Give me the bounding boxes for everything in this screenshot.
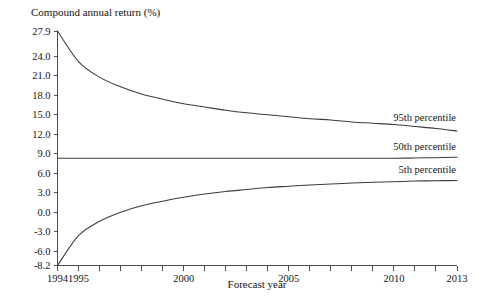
series-inline-labels: 95th percentile50th percentile5th percen… bbox=[393, 112, 456, 175]
series-curve bbox=[58, 157, 458, 158]
chart-page: Compound annual return (%) -8.2-6.0-3.00… bbox=[0, 0, 486, 307]
y-tick-label: -6.0 bbox=[34, 246, 51, 257]
y-axis: -8.2-6.0-3.00.03.06.09.012.015.018.021.0… bbox=[32, 26, 57, 272]
y-tick-label: 18.0 bbox=[32, 90, 50, 101]
y-axis-ticks bbox=[54, 31, 58, 266]
y-tick-label: 21.0 bbox=[32, 70, 50, 81]
y-tick-label: 6.0 bbox=[37, 168, 50, 179]
x-axis: 199419952000200520102013 Forecast year bbox=[47, 266, 468, 291]
x-tick-label: 1995 bbox=[68, 273, 89, 284]
y-tick-label: 15.0 bbox=[32, 109, 50, 120]
x-axis-ticks bbox=[58, 266, 458, 271]
chart-title: Compound annual return (%) bbox=[31, 6, 161, 19]
y-tick-label: 9.0 bbox=[37, 148, 50, 159]
y-tick-label: -3.0 bbox=[34, 226, 51, 237]
y-tick-label: 0.0 bbox=[37, 207, 50, 218]
x-tick-label: 2010 bbox=[383, 273, 404, 284]
y-tick-label: 24.0 bbox=[32, 51, 50, 62]
x-tick-label: 1994 bbox=[47, 273, 69, 284]
y-tick-label: 12.0 bbox=[32, 129, 50, 140]
x-tick-label: 2000 bbox=[173, 273, 194, 284]
series-label: 50th percentile bbox=[393, 141, 456, 152]
y-axis-tick-labels: -8.2-6.0-3.00.03.06.09.012.015.018.021.0… bbox=[32, 26, 50, 272]
y-tick-label: 3.0 bbox=[37, 187, 50, 198]
percentile-forecast-chart: Compound annual return (%) -8.2-6.0-3.00… bbox=[0, 0, 486, 307]
x-axis-title: Forecast year bbox=[228, 278, 287, 290]
y-tick-label: -8.2 bbox=[34, 260, 51, 271]
y-tick-label: 27.9 bbox=[32, 26, 50, 37]
series-label: 95th percentile bbox=[393, 112, 456, 123]
x-tick-label: 2013 bbox=[447, 273, 468, 284]
series-curve bbox=[58, 180, 458, 265]
series-label: 5th percentile bbox=[399, 164, 457, 175]
